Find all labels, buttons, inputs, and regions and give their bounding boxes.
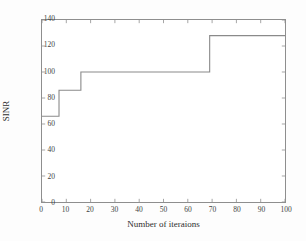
y-tick-label: 0 bbox=[51, 199, 55, 207]
x-axis-title: Number of iteraions bbox=[41, 219, 286, 229]
y-tick-label: 40 bbox=[48, 147, 56, 155]
x-tick-label: 90 bbox=[258, 206, 266, 214]
tick-marks bbox=[42, 20, 285, 202]
series-line-sinr bbox=[42, 36, 285, 117]
figure-canvas: 0102030405060708090100 02040608010012014… bbox=[0, 0, 306, 241]
x-tick-label: 80 bbox=[233, 206, 241, 214]
y-tick-label: 60 bbox=[48, 120, 56, 128]
y-tick-label: 20 bbox=[48, 173, 56, 181]
x-tick-label: 10 bbox=[62, 206, 70, 214]
y-axis-title: SINR bbox=[1, 101, 11, 122]
y-tick-label: 100 bbox=[44, 68, 55, 76]
x-tick-label: 60 bbox=[184, 206, 192, 214]
y-tick-label: 80 bbox=[48, 94, 56, 102]
x-tick-label: 30 bbox=[111, 206, 119, 214]
x-tick-label: 0 bbox=[39, 206, 43, 214]
data-series-layer bbox=[42, 20, 285, 202]
x-tick-label: 100 bbox=[280, 206, 291, 214]
x-tick-label: 20 bbox=[86, 206, 94, 214]
y-tick-label: 120 bbox=[44, 42, 55, 50]
plot-area bbox=[41, 19, 286, 203]
x-tick-label: 50 bbox=[160, 206, 168, 214]
y-tick-label: 140 bbox=[44, 15, 55, 23]
x-tick-label: 70 bbox=[209, 206, 217, 214]
x-tick-label: 40 bbox=[135, 206, 143, 214]
